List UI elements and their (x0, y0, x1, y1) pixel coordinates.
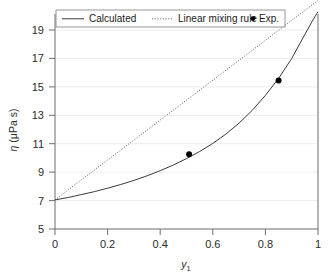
chart-legend: Calculated Linear mixing rule Exp. (56, 10, 285, 27)
svg-text:η (μPa s): η (μPa s) (7, 109, 19, 152)
legend-label-calculated: Calculated (89, 13, 136, 24)
legend-label-linear-mixing-rule: Linear mixing rule (178, 13, 257, 24)
x-tick-label: 1 (315, 238, 321, 250)
y-tick-label: 11 (33, 138, 44, 150)
exp-data-point (276, 77, 282, 83)
y-axis-units: (μPa s) (7, 109, 19, 143)
series-exp-points (186, 77, 282, 157)
x-tick-label: 0 (52, 238, 58, 250)
exp-data-point (186, 151, 192, 157)
x-tick-label: 0.6 (205, 238, 220, 250)
legend-swatch-exp (251, 16, 256, 21)
x-axis-title: y1 (180, 258, 190, 273)
y-tick-label: 19 (32, 24, 44, 36)
y-tick-label: 9 (38, 166, 44, 178)
x-tick-label: 0.4 (153, 238, 168, 250)
x-axis-subscript: 1 (187, 264, 191, 273)
svg-text:y1: y1 (180, 258, 190, 273)
x-tick-label: 0.2 (100, 238, 115, 250)
y-tick-label: 5 (38, 223, 44, 235)
y-tick-label: 7 (38, 195, 44, 207)
y-tick-labels: 19 17 15 13 11 9 7 5 (32, 24, 44, 235)
viscosity-composition-chart: 19 17 15 13 11 9 7 5 0 0.2 0.4 0.6 0.8 1… (0, 0, 333, 278)
y-tick-label: 13 (32, 109, 44, 121)
y-tick-marks (49, 30, 55, 229)
gridlines (55, 30, 318, 201)
legend-label-exp: Exp. (259, 13, 279, 24)
y-tick-label: 17 (32, 52, 44, 64)
chart-svg: 19 17 15 13 11 9 7 5 0 0.2 0.4 0.6 0.8 1… (0, 0, 333, 278)
axes-frame (55, 14, 318, 229)
x-tick-label: 0.8 (258, 238, 273, 250)
x-tick-labels: 0 0.2 0.4 0.6 0.8 1 (52, 238, 321, 250)
x-tick-marks (55, 229, 318, 235)
y-axis-title: η (μPa s) (7, 109, 19, 152)
y-tick-label: 15 (32, 81, 44, 93)
